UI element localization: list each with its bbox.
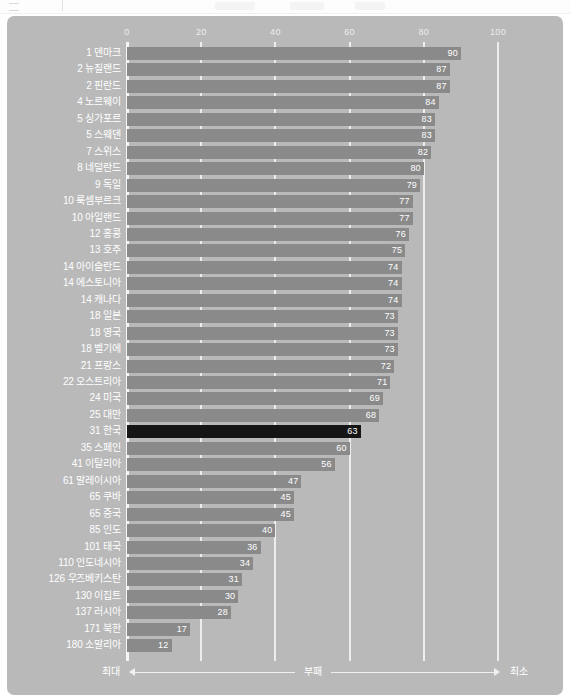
bar-row: 25 대만68 (7, 409, 563, 422)
bar-value-label: 82 (418, 146, 428, 159)
bar-category-label: 24 미국 (11, 391, 121, 404)
bar-value-label: 17 (177, 623, 187, 636)
bar-value-label: 45 (281, 491, 291, 504)
bar-row: 126 우즈베키스탄31 (7, 573, 563, 586)
bar-category-label: 1 덴마크 (11, 46, 121, 59)
bar-value-label: 79 (407, 179, 417, 192)
x-axis-tick-0: 0 (124, 27, 129, 37)
bar-category-label: 21 프랑스 (11, 359, 121, 372)
bar-value-label: 74 (388, 261, 398, 274)
bar-category-label: 10 아일랜드 (11, 211, 121, 224)
hamburger-icon[interactable] (9, 3, 19, 11)
bar-value-label: 90 (447, 47, 457, 60)
bar-category-label: 65 중국 (11, 507, 121, 520)
bar-value-label: 40 (262, 524, 272, 537)
bar-category-label: 31 한국 (11, 424, 121, 437)
bar: 76 (127, 228, 409, 241)
bar-category-label: 101 태국 (11, 540, 121, 553)
bar-highlighted: 63 (127, 425, 361, 438)
bar-category-label: 171 북한 (11, 622, 121, 635)
bar-value-label: 72 (381, 360, 391, 373)
bar: 45 (127, 508, 294, 521)
bar: 71 (127, 376, 390, 389)
bar: 28 (127, 606, 231, 619)
bar-row: 8 네덜란드80 (7, 162, 563, 175)
bar-category-label: 18 영국 (11, 326, 121, 339)
bar: 90 (127, 47, 461, 60)
bar: 87 (127, 63, 450, 76)
bar-category-label: 13 호주 (11, 243, 121, 256)
bar: 72 (127, 360, 394, 373)
bar-value-label: 74 (388, 277, 398, 290)
bar: 74 (127, 261, 402, 274)
bar: 73 (127, 310, 398, 323)
toolbar-ghost-item-1 (215, 2, 255, 10)
bar-category-label: 61 말레이시아 (11, 474, 121, 487)
toolbar-divider (62, 0, 63, 11)
bar-row: 130 이집트30 (7, 590, 563, 603)
bar-row: 61 말레이시아47 (7, 475, 563, 488)
bar: 83 (127, 113, 435, 126)
bar-row: 14 아이슬란드74 (7, 261, 563, 274)
bar: 84 (127, 96, 439, 109)
bar: 31 (127, 573, 242, 586)
bar-row: 14 캐나다74 (7, 294, 563, 307)
legend-axis-line-right (331, 672, 495, 673)
chart-panel: 0204060801001 덴마크902 뉴질랜드872 핀란드874 노르웨이… (7, 16, 563, 695)
bar-category-label: 14 캐나다 (11, 293, 121, 306)
bar: 60 (127, 442, 350, 455)
bar-row: 41 이탈리아56 (7, 458, 563, 471)
bar-category-label: 5 싱가포르 (11, 112, 121, 125)
bar-value-label: 87 (436, 63, 446, 76)
bar-row: 101 태국36 (7, 541, 563, 554)
bar-category-label: 22 오스트리아 (11, 375, 121, 388)
bar: 83 (127, 129, 435, 142)
bar-category-label: 5 스웨덴 (11, 128, 121, 141)
bar-row: 2 핀란드87 (7, 80, 563, 93)
bar-value-label: 71 (377, 376, 387, 389)
bar-value-label: 83 (422, 129, 432, 142)
bar-value-label: 36 (247, 541, 257, 554)
x-axis-tick-100: 100 (490, 27, 506, 37)
chart-footer-legend: 최대 부패 최소 (7, 663, 563, 681)
bar-category-label: 12 홍콩 (11, 227, 121, 240)
bar-value-label: 73 (384, 327, 394, 340)
bar-category-label: 2 뉴질랜드 (11, 62, 121, 75)
bar-value-label: 31 (229, 573, 239, 586)
bar-category-label: 7 스위스 (11, 145, 121, 158)
legend-label-min: 최소 (510, 663, 528, 681)
bar: 74 (127, 277, 402, 290)
bar-row: 18 벨기에73 (7, 343, 563, 356)
bar-category-label: 2 핀란드 (11, 79, 121, 92)
bar-category-label: 14 에스토니아 (11, 276, 121, 289)
bar-category-label: 9 독일 (11, 178, 121, 191)
bar-value-label: 77 (399, 195, 409, 208)
bar-category-label: 10 룩셈부르크 (11, 194, 121, 207)
x-axis-tick-80: 80 (418, 27, 429, 37)
bar: 40 (127, 524, 275, 537)
bar-row: 14 에스토니아74 (7, 277, 563, 290)
bar-row: 31 한국63 (7, 425, 563, 438)
browser-top-strip (0, 0, 571, 14)
legend-label-corruption: 부패 (304, 663, 322, 681)
bar-row: 2 뉴질랜드87 (7, 63, 563, 76)
toolbar-ghost-item-2 (290, 2, 324, 10)
bar-category-label: 110 인도네시아 (11, 556, 121, 569)
bar-category-label: 8 네덜란드 (11, 161, 121, 174)
bar-value-label: 30 (225, 590, 235, 603)
bar-value-label: 56 (321, 458, 331, 471)
x-axis-tick-20: 20 (196, 27, 207, 37)
bar-row: 21 프랑스72 (7, 360, 563, 373)
bar-row: 10 아일랜드77 (7, 212, 563, 225)
bar: 73 (127, 343, 398, 356)
bar: 79 (127, 179, 420, 192)
bar: 77 (127, 212, 413, 225)
bar-chart-plot-area: 0204060801001 덴마크902 뉴질랜드872 핀란드874 노르웨이… (7, 16, 563, 695)
bar-category-label: 18 벨기에 (11, 342, 121, 355)
bar-row: 85 인도40 (7, 524, 563, 537)
bar: 69 (127, 392, 383, 405)
bar-value-label: 45 (281, 508, 291, 521)
bar-value-label: 80 (410, 162, 420, 175)
legend-label-max: 최대 (102, 663, 120, 681)
bar-category-label: 126 우즈베키스탄 (11, 572, 121, 585)
